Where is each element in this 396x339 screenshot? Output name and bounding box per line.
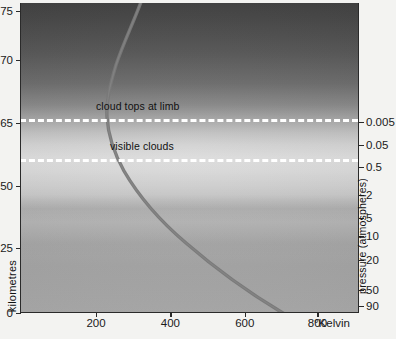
- atmosphere-temperature-chart: cloud tops at limb visible clouds 200400…: [0, 0, 396, 339]
- temperature-curve-path: [107, 3, 288, 312]
- x-axis-unit-label: °Kelvin: [314, 317, 350, 329]
- left-tick-mark: [16, 248, 21, 249]
- annotation-cloud-tops-at-limb: cloud tops at limb: [96, 100, 180, 112]
- temperature-curve-highlight: [107, 3, 288, 312]
- right-tick-mark: [358, 167, 364, 168]
- right-axis-title: pressure (atmospheres): [356, 178, 368, 294]
- temperature-profile-curve: [20, 3, 358, 312]
- right-tick-label: 90: [366, 300, 379, 312]
- left-tick-mark: [16, 123, 21, 124]
- plot-area: [20, 3, 358, 312]
- left-tick-mark: [16, 313, 21, 314]
- right-tick-mark: [358, 122, 364, 123]
- right-tick-label: 0.005: [366, 116, 395, 128]
- left-axis-title: kilometres: [6, 260, 18, 312]
- x-tick-label: 600: [235, 317, 254, 329]
- right-tick-mark: [358, 306, 364, 307]
- right-tick-label: 0.05: [366, 139, 388, 151]
- right-tick-label: 0.5: [366, 161, 382, 173]
- left-tick-label: 70: [0, 54, 13, 66]
- cloud-tops-dashed-line: [20, 119, 358, 122]
- left-tick-label: 75: [0, 5, 13, 17]
- left-tick-mark: [16, 11, 21, 12]
- x-tick-label: 200: [86, 317, 105, 329]
- annotation-visible-clouds: visible clouds: [110, 140, 174, 152]
- x-axis-line: [20, 312, 359, 313]
- left-tick-mark: [16, 60, 21, 61]
- left-tick-mark: [16, 186, 21, 187]
- x-tick-label: 400: [161, 317, 180, 329]
- visible-clouds-dashed-line: [20, 159, 358, 162]
- left-tick-label: 50: [0, 180, 13, 192]
- left-tick-label: 65: [0, 117, 13, 129]
- left-axis-line: [20, 3, 21, 313]
- left-tick-label: 25: [0, 242, 13, 254]
- right-tick-mark: [358, 145, 364, 146]
